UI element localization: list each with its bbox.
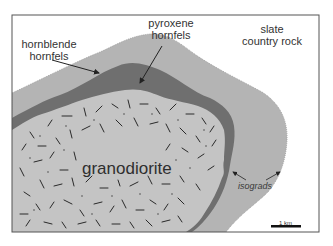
- pyroxene-label-line1: pyroxene: [142, 17, 200, 29]
- pyroxene-label-line2: hornfels: [142, 29, 200, 41]
- pyroxene-hornfels-label: pyroxene hornfels: [142, 17, 200, 41]
- hornblende-label-line2: hornfels: [15, 50, 83, 62]
- slate-label-line1: slate: [234, 23, 310, 35]
- slate-country-rock-label: slate country rock: [234, 23, 310, 47]
- scale-bar-label: 1 km: [279, 217, 292, 229]
- slate-label-line2: country rock: [234, 35, 310, 47]
- hornblende-hornfels-label: hornblende hornfels: [15, 38, 83, 62]
- granodiorite-label: granodiorite: [82, 160, 172, 178]
- isograds-label: isograds: [238, 180, 272, 192]
- hornblende-label-line1: hornblende: [15, 38, 83, 50]
